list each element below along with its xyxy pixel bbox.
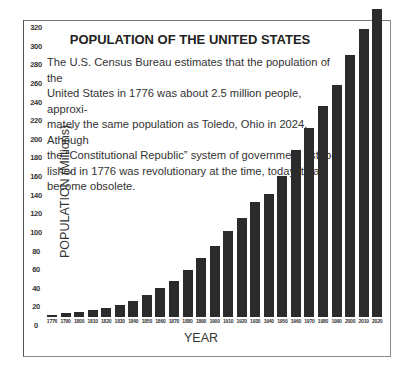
x-tick-label: 1880 bbox=[181, 318, 195, 324]
y-tick-label: 20 bbox=[27, 302, 45, 311]
x-tick-label: 2010 bbox=[357, 318, 371, 324]
bar-1860 bbox=[155, 288, 165, 317]
y-tick-label: 280 bbox=[27, 60, 45, 69]
bar-1870 bbox=[169, 281, 179, 317]
bar-2000 bbox=[345, 55, 355, 317]
bar-2020 bbox=[372, 9, 382, 317]
x-tick-label: 2000 bbox=[343, 318, 357, 324]
x-tick-label: 1830 bbox=[113, 318, 127, 324]
bar-1980 bbox=[318, 106, 328, 317]
x-tick-label: 1890 bbox=[194, 318, 208, 324]
x-tick-label: 1970 bbox=[302, 318, 316, 324]
y-tick-label: 120 bbox=[27, 209, 45, 218]
y-tick-label: 80 bbox=[27, 246, 45, 255]
x-tick-label: 1920 bbox=[235, 318, 249, 324]
bar-1900 bbox=[210, 246, 220, 317]
x-tick-label: 2020 bbox=[370, 318, 384, 324]
x-tick-label: 1910 bbox=[221, 318, 235, 324]
bar-1820 bbox=[101, 308, 111, 317]
x-tick-label: 1820 bbox=[99, 318, 113, 324]
x-tick-label: 1930 bbox=[248, 318, 262, 324]
y-tick-label: 240 bbox=[27, 97, 45, 106]
description-line: The U.S. Census Bureau estimates that th… bbox=[47, 55, 337, 86]
x-tick-label: 1990 bbox=[330, 318, 344, 324]
bar-1920 bbox=[237, 218, 247, 317]
y-tick-label: 160 bbox=[27, 172, 45, 181]
x-tick-label: 1900 bbox=[208, 318, 222, 324]
y-tick-label: 300 bbox=[27, 41, 45, 50]
bar-1940 bbox=[264, 194, 274, 317]
y-tick-label: 200 bbox=[27, 134, 45, 143]
y-tick-label: 140 bbox=[27, 190, 45, 199]
y-tick-label: 100 bbox=[27, 227, 45, 236]
bar-1950 bbox=[277, 176, 287, 317]
x-tick-label: 1850 bbox=[140, 318, 154, 324]
bar-2010 bbox=[359, 29, 369, 317]
x-tick-label: 1840 bbox=[126, 318, 140, 324]
y-tick-label: 320 bbox=[27, 23, 45, 32]
description-line: United States in 1776 was about 2.5 mill… bbox=[47, 86, 337, 117]
y-tick-label: 0 bbox=[27, 321, 45, 330]
y-tick-label: 260 bbox=[27, 78, 45, 87]
bar-1890 bbox=[196, 258, 206, 317]
bar-1930 bbox=[250, 202, 260, 317]
x-tick-label: 1776 bbox=[45, 318, 59, 324]
bar-1800 bbox=[74, 312, 84, 317]
x-tick-label: 1860 bbox=[153, 318, 167, 324]
bar-1850 bbox=[142, 295, 152, 317]
bar-1790 bbox=[61, 313, 71, 317]
x-tick-label: 1960 bbox=[289, 318, 303, 324]
x-tick-label: 1940 bbox=[262, 318, 276, 324]
x-tick-label: 1800 bbox=[72, 318, 86, 324]
bar-1840 bbox=[128, 301, 138, 317]
bar-1880 bbox=[183, 270, 193, 317]
chart-title: POPULATION OF THE UNITED STATES bbox=[60, 32, 320, 47]
y-tick-label: 40 bbox=[27, 283, 45, 292]
description-line: mately the same population as Toledo, Oh… bbox=[47, 117, 337, 148]
bar-1970 bbox=[304, 128, 314, 317]
x-tick-label: 1870 bbox=[167, 318, 181, 324]
y-tick-label: 220 bbox=[27, 116, 45, 125]
bar-1990 bbox=[332, 85, 342, 317]
bar-1910 bbox=[223, 231, 233, 317]
x-tick-label: 1790 bbox=[59, 318, 73, 324]
y-axis-label: POPULATION (Millions) bbox=[58, 125, 72, 258]
x-tick-label: 1810 bbox=[86, 318, 100, 324]
y-tick-label: 60 bbox=[27, 265, 45, 274]
x-axis-label: YEAR bbox=[184, 331, 218, 345]
bar-1830 bbox=[115, 305, 125, 317]
bar-1960 bbox=[291, 150, 301, 317]
bar-1776 bbox=[47, 315, 57, 317]
x-tick-label: 1950 bbox=[275, 318, 289, 324]
bar-1810 bbox=[88, 310, 98, 317]
y-tick-label: 180 bbox=[27, 153, 45, 162]
x-tick-label: 1980 bbox=[316, 318, 330, 324]
